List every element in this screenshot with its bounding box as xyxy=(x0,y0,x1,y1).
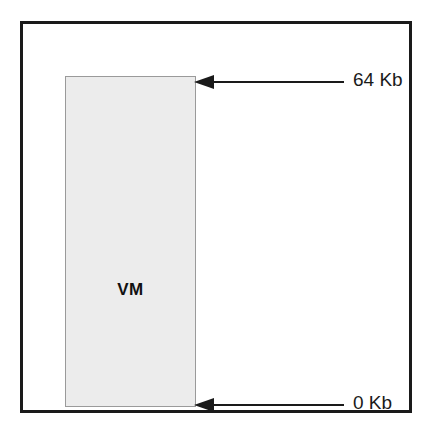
left-arrow-icon xyxy=(194,398,214,412)
vm-block-label: VM xyxy=(66,280,195,300)
arrow-shaft xyxy=(212,404,344,406)
diagram-canvas: VM 64 Kb 0 Kb xyxy=(0,0,433,440)
arrow-shaft xyxy=(212,81,344,83)
top-annotation-arrow xyxy=(194,74,344,90)
bottom-annotation-arrow xyxy=(194,397,344,413)
top-address-label: 64 Kb xyxy=(353,69,403,91)
left-arrow-icon xyxy=(194,75,214,89)
diagram-outer-frame: VM 64 Kb 0 Kb xyxy=(20,21,412,413)
vm-memory-block: VM xyxy=(65,76,196,407)
bottom-address-label: 0 Kb xyxy=(353,392,392,414)
